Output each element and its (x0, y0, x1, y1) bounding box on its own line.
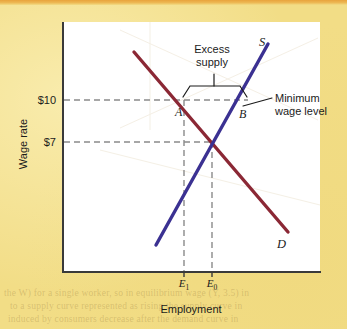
x-tick-label-e1-subscript: 1 (185, 283, 189, 292)
x-tick-label-e1: E1 (170, 277, 198, 292)
excess-supply-annotation-line-2: supply (196, 56, 228, 68)
supply-curve-label: S (259, 35, 265, 50)
excess-supply-brace (183, 74, 247, 97)
excess-supply-annotation-line-1: Excess (194, 43, 229, 55)
point-label-a: A (175, 105, 182, 120)
minimum-wage-annotation-line-1: Minimum (275, 92, 320, 104)
minimum-wage-annotation-line-2: wage level (275, 105, 327, 117)
y-axis-title: Wage rate (17, 99, 29, 189)
demand-curve-label: D (277, 237, 286, 252)
minimum-wage-leader-line (243, 98, 272, 106)
minimum-wage-figure: the W) for a single worker, so in equili… (0, 0, 347, 329)
x-tick-label-e0-subscript: 0 (213, 283, 217, 292)
x-tick-label-e0: E0 (198, 277, 226, 292)
x-axis-title: Employment (126, 303, 256, 315)
excess-supply-annotation: Excess supply (176, 43, 248, 68)
minimum-wage-level-annotation: Minimum wage level (275, 92, 347, 117)
point-label-b: B (239, 107, 246, 122)
